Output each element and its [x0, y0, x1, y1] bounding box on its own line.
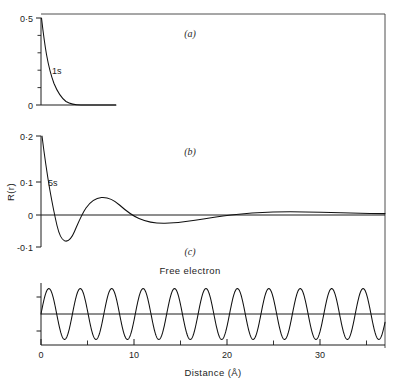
panel-c-xticklabel-30: 30	[315, 350, 325, 360]
panel-c: (c) Free electron	[37, 246, 386, 378]
panel-c-xticklabel-0: 0	[38, 350, 43, 360]
panel-b-label: (b)	[184, 146, 196, 158]
panel-c-xticklabel-20: 20	[222, 350, 232, 360]
panel-b-curve-5s	[42, 136, 385, 241]
panel-b: 0·2 0·1 0 -0·1 R(r) 5s (b)	[5, 132, 385, 253]
panel-c-xticklabel-10: 10	[129, 350, 139, 360]
panel-c-y-ticks	[37, 297, 42, 331]
panel-b-yticklabel-0.1: 0·1	[20, 178, 33, 188]
panel-c-x-ticks	[41, 339, 367, 345]
panel-b-y-ticks	[36, 136, 41, 247]
radial-wavefunction-figure: 0·5 0 1s (a) 0·2 0·	[0, 0, 404, 382]
panel-b-curve-label: 5s	[48, 178, 58, 188]
y-axis-title: R(r)	[5, 183, 16, 201]
panel-a-curve-label: 1s	[52, 66, 62, 76]
panel-c-label: (c)	[184, 246, 196, 258]
x-axis-title: Distance (Å)	[184, 367, 241, 378]
panel-a-y-ticks	[36, 18, 41, 105]
panel-a: 0·5 0 1s (a)	[20, 14, 197, 111]
panel-a-label: (a)	[184, 28, 196, 40]
figure-frame	[41, 14, 385, 348]
panel-a-yticklabel-bottom: 0	[28, 101, 33, 111]
panel-b-yticklabel-0: 0	[28, 211, 33, 221]
panel-b-yticklabel--0.1: -0·1	[17, 243, 33, 253]
panel-a-curve-1s	[42, 18, 117, 105]
panel-c-curve-label: Free electron	[159, 265, 220, 276]
panel-a-yticklabel-top: 0·5	[20, 14, 33, 24]
panel-b-yticklabel-0.2: 0·2	[20, 132, 33, 142]
figure-svg: 0·5 0 1s (a) 0·2 0·	[0, 0, 404, 382]
